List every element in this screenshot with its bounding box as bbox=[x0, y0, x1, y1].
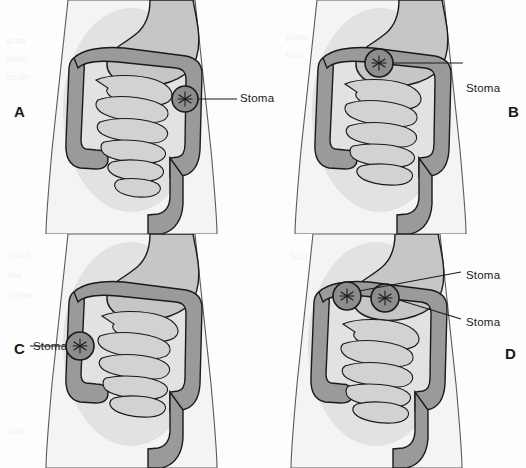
panel-letter-c: C bbox=[14, 340, 25, 357]
panel-a bbox=[0, 0, 263, 234]
panel-b bbox=[263, 0, 526, 234]
stoma-site-b bbox=[365, 49, 393, 77]
stoma-label-b: Stoma bbox=[466, 82, 500, 94]
stoma-site-c bbox=[66, 332, 94, 360]
stoma-label-d-2: Stoma bbox=[466, 316, 500, 328]
stoma-label-a: Stoma bbox=[240, 92, 274, 104]
panel-letter-b: B bbox=[508, 103, 519, 120]
stoma-site-a bbox=[172, 86, 198, 112]
panel-letter-a: A bbox=[14, 103, 25, 120]
panel-letter-d: D bbox=[505, 345, 516, 362]
stoma-label-c: Stoma bbox=[33, 340, 67, 352]
stoma-site-d-1 bbox=[333, 282, 361, 310]
figure-container: scan from under plate tion color the pag… bbox=[0, 0, 526, 468]
stoma-label-d-1: Stoma bbox=[466, 269, 500, 281]
